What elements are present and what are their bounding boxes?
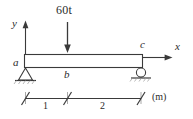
point-label-a: a [13,57,19,68]
beam-diagram: 60t y x a b c 1 2 (m) [0,0,193,119]
dimension-line [22,92,146,105]
x-axis-label: x [175,41,180,52]
dimension-label-segment-2: 2 [100,101,105,111]
y-axis-arrow [23,21,29,57]
pin-support [14,68,36,84]
x-axis-arrow [142,55,173,61]
load-arrow [64,22,71,53]
dimension-label-segment-1: 1 [43,101,48,111]
point-label-b: b [64,69,70,80]
beam-member [25,55,143,68]
point-label-c: c [140,39,145,50]
roller-support [130,68,151,82]
load-label: 60t [56,4,72,16]
y-axis-label: y [12,18,17,29]
dimension-unit-label: (m) [152,92,166,102]
